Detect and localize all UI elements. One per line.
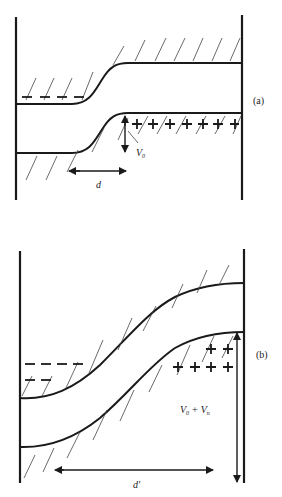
junction-diagram: V0 d (a)	[0, 0, 282, 497]
d-label-a: d	[96, 179, 102, 190]
panel-label-a: (a)	[253, 95, 264, 107]
hatching-lower-a	[26, 116, 241, 180]
panel-b: V0+Vn d′ (b)	[20, 249, 268, 490]
valence-band-a	[16, 113, 242, 153]
positive-charges-b	[173, 344, 233, 372]
dprime-label-b: d′	[133, 479, 141, 490]
hatching-upper-b	[22, 265, 229, 396]
panel-label-b: (b)	[256, 349, 268, 361]
panel-a: V0 d (a)	[16, 15, 264, 200]
hatching-upper-a	[26, 38, 240, 100]
negative-charges-b	[25, 364, 83, 380]
v0-vn-label-b: V0+Vn	[180, 404, 210, 416]
v0-label-a: V0	[136, 147, 145, 159]
v0-leader-a	[128, 131, 138, 143]
conduction-band-b	[20, 283, 244, 398]
